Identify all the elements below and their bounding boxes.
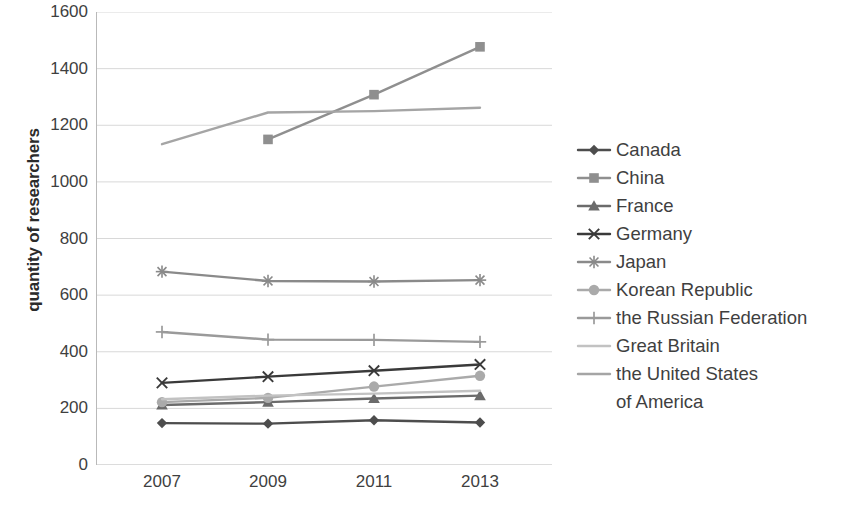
x-tick-label: 2013	[440, 472, 520, 492]
series-china	[263, 42, 485, 144]
series-the-united-states-of-america	[162, 108, 480, 145]
y-tick-label: 200	[28, 398, 88, 418]
y-tick-label: 1200	[28, 115, 88, 135]
y-axis-tick-labels: 02004006008001000120014001600	[20, 12, 88, 465]
series-the-russian-federation	[156, 326, 486, 348]
legend-item[interactable]: the United States	[576, 360, 858, 388]
legend-item[interactable]: Canada	[576, 136, 858, 164]
legend-marker-diamond-icon	[576, 136, 616, 164]
legend-item[interactable]: Korean Republic	[576, 276, 858, 304]
series-germany	[157, 359, 485, 388]
y-tick-label: 400	[28, 342, 88, 362]
legend-marker-cross-x-icon	[576, 220, 616, 248]
x-tick-label: 2009	[228, 472, 308, 492]
y-tick-label: 0	[28, 455, 88, 475]
y-tick-label: 1000	[28, 172, 88, 192]
legend-item[interactable]: Germany	[576, 220, 858, 248]
legend-label: the Russian Federation	[616, 304, 807, 332]
series-canada	[157, 415, 485, 429]
legend-label: Great Britain	[616, 332, 720, 360]
y-tick-label: 600	[28, 285, 88, 305]
legend-marker-line-icon	[576, 332, 616, 360]
axis-lines	[96, 12, 97, 465]
legend-label: France	[616, 192, 674, 220]
x-tick-label: 2007	[122, 472, 202, 492]
legend-label: Korean Republic	[616, 276, 753, 304]
legend-marker-triangle-icon	[576, 192, 616, 220]
x-axis-tick-labels: 2007200920112013	[96, 472, 552, 500]
legend-label: Japan	[616, 248, 666, 276]
legend-label: Canada	[616, 136, 681, 164]
x-tick-label: 2011	[334, 472, 414, 492]
legend-item[interactable]: Japan	[576, 248, 858, 276]
series-japan	[156, 265, 486, 287]
plot-area	[96, 12, 552, 465]
legend-marker-circle-icon	[576, 276, 616, 304]
y-tick-label: 800	[28, 229, 88, 249]
legend-item[interactable]: China	[576, 164, 858, 192]
line-chart: quantity of researchers 0200400600800100…	[0, 0, 862, 515]
chart-legend: CanadaChinaFranceGermanyJapanKorean Repu…	[576, 136, 858, 416]
series-korean-republic	[157, 371, 485, 408]
legend-marker-square-icon	[576, 164, 616, 192]
legend-item[interactable]: France	[576, 192, 858, 220]
legend-marker-line-icon	[576, 360, 616, 388]
legend-label: Germany	[616, 220, 692, 248]
legend-item[interactable]: Great Britain	[576, 332, 858, 360]
legend-label: China	[616, 164, 664, 192]
legend-label-continuation: of America	[576, 388, 858, 416]
y-tick-label: 1600	[28, 2, 88, 22]
legend-item[interactable]: the Russian Federation	[576, 304, 858, 332]
plot-svg	[96, 12, 552, 465]
y-tick-label: 1400	[28, 59, 88, 79]
legend-marker-plus-icon	[576, 304, 616, 332]
legend-label: the United States	[616, 360, 758, 388]
legend-marker-asterisk-icon	[576, 248, 616, 276]
